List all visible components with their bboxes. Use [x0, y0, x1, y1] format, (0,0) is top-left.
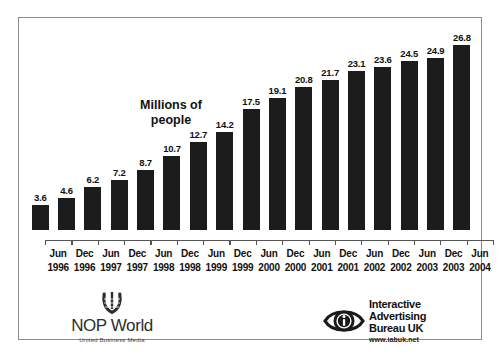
nop-world-wordmark: NOP World — [37, 317, 187, 335]
x-axis-label: Dec1997 — [124, 247, 150, 274]
bar-value-label: 23.6 — [374, 55, 392, 65]
bar[interactable] — [190, 142, 207, 230]
x-axis-label-month: Jun — [309, 247, 335, 261]
x-axis-label-month: Jun — [256, 247, 282, 261]
axis-tick — [493, 240, 494, 245]
x-axis-label: Dec2003 — [440, 247, 466, 274]
bar-slot[interactable]: 19.1 — [264, 23, 290, 230]
x-axis-label: Dec2001 — [335, 247, 361, 274]
bar-slot[interactable]: 23.6 — [370, 23, 396, 230]
x-axis-label-month: Dec — [335, 247, 361, 261]
bar-slot[interactable]: 21.7 — [317, 23, 343, 230]
x-axis-label-year: 2000 — [256, 261, 282, 275]
axis-tick — [335, 240, 336, 245]
x-axis-label-year: 2003 — [414, 261, 440, 275]
x-axis-label-month: Dec — [177, 247, 203, 261]
x-axis-label-month: Jun — [467, 247, 493, 261]
bar-slot[interactable]: 3.6 — [27, 23, 53, 230]
bar-slot[interactable]: 23.1 — [343, 23, 369, 230]
x-axis-label-year: 2001 — [335, 261, 361, 275]
x-axis-label-year: 1998 — [177, 261, 203, 275]
laurel-wreath-icon — [101, 290, 123, 316]
bar-value-label: 23.1 — [348, 59, 366, 69]
bar[interactable] — [427, 58, 444, 230]
bar-value-label: 24.9 — [427, 46, 445, 56]
bar-slot[interactable]: 4.6 — [53, 23, 79, 230]
bar-value-label: 26.8 — [453, 33, 471, 43]
bar-slot[interactable]: 6.2 — [80, 23, 106, 230]
axis-tick — [124, 240, 125, 245]
x-axis-ticks — [45, 240, 493, 245]
bar[interactable] — [32, 205, 49, 230]
x-axis-label-month: Jun — [414, 247, 440, 261]
axis-tick — [467, 240, 468, 245]
iab-uk-text: Interactive Advertising Bureau UK www.ia… — [369, 299, 475, 342]
x-axis-label: Dec2000 — [282, 247, 308, 274]
x-axis-label-year: 1999 — [203, 261, 229, 275]
bar-value-label: 20.8 — [295, 75, 313, 85]
x-axis-label-month: Dec — [230, 247, 256, 261]
x-axis-label-year: 1999 — [230, 261, 256, 275]
x-axis-label-year: 2000 — [282, 261, 308, 275]
bar[interactable] — [243, 109, 260, 230]
iab-line-3: Bureau UK — [369, 323, 475, 335]
axis-tick — [361, 240, 362, 245]
bar-value-label: 21.7 — [321, 68, 339, 78]
iab-uk-url: www.iabuk.net — [369, 336, 475, 343]
iab-uk-logo: Interactive Advertising Bureau UK www.ia… — [323, 296, 475, 346]
bar[interactable] — [295, 87, 312, 230]
bar[interactable] — [137, 170, 154, 230]
axis-tick — [256, 240, 257, 245]
axis-tick — [177, 240, 178, 245]
bar[interactable] — [401, 61, 418, 230]
nop-world-tagline: United Business Media — [37, 337, 187, 343]
bar-slot[interactable]: 26.8 — [449, 23, 475, 230]
bar[interactable] — [348, 71, 365, 230]
bar-slot[interactable]: 24.5 — [396, 23, 422, 230]
axis-tick — [150, 240, 151, 245]
x-axis-label: Jun1997 — [98, 247, 124, 274]
bar[interactable] — [216, 132, 233, 230]
bar-slot[interactable]: 17.5 — [238, 23, 264, 230]
bar[interactable] — [58, 198, 75, 230]
bar-value-label: 10.7 — [163, 144, 181, 154]
x-axis-label: Dec1996 — [71, 247, 97, 274]
axis-tick — [388, 240, 389, 245]
plot-area: 3.64.66.27.28.710.712.714.217.519.120.82… — [27, 23, 475, 230]
bar[interactable] — [163, 156, 180, 230]
x-axis-label-year: 2002 — [388, 261, 414, 275]
bar[interactable] — [374, 67, 391, 230]
x-axis-label-year: 2003 — [440, 261, 466, 275]
bar-value-label: 12.7 — [189, 130, 207, 140]
bar-slot[interactable]: 24.9 — [422, 23, 448, 230]
bar-value-label: 7.2 — [113, 168, 126, 178]
x-axis-label-year: 2002 — [361, 261, 387, 275]
bar[interactable] — [322, 80, 339, 230]
axis-tick — [309, 240, 310, 245]
x-axis-label: Jun2003 — [414, 247, 440, 274]
bar[interactable] — [84, 187, 101, 230]
x-axis-label-month: Jun — [98, 247, 124, 261]
x-axis-label: Jun2001 — [309, 247, 335, 274]
x-axis-label: Jun1996 — [45, 247, 71, 274]
x-axis-label: Jun2004 — [467, 247, 493, 274]
axis-tick — [45, 240, 46, 245]
bar[interactable] — [111, 180, 128, 230]
axis-tick — [98, 240, 99, 245]
axis-tick — [203, 240, 204, 245]
x-axis-label: Jun2002 — [361, 247, 387, 274]
chart-title-line-2: people — [151, 113, 191, 127]
chart-title-line-1: Millions of — [140, 98, 202, 112]
x-axis-label: Dec1998 — [177, 247, 203, 274]
iab-line-2: Advertising — [369, 311, 475, 323]
bar-value-label: 24.5 — [400, 49, 418, 59]
slide-canvas: 3.64.66.27.28.710.712.714.217.519.120.82… — [0, 0, 501, 355]
x-axis-label-month: Dec — [71, 247, 97, 261]
bar-slot[interactable]: 20.8 — [291, 23, 317, 230]
x-axis-label-year: 1997 — [98, 261, 124, 275]
x-axis-label-year: 2001 — [309, 261, 335, 275]
x-axis-label-month: Jun — [361, 247, 387, 261]
x-axis-label: Jun1999 — [203, 247, 229, 274]
bar[interactable] — [269, 98, 286, 230]
bar[interactable] — [453, 45, 470, 230]
